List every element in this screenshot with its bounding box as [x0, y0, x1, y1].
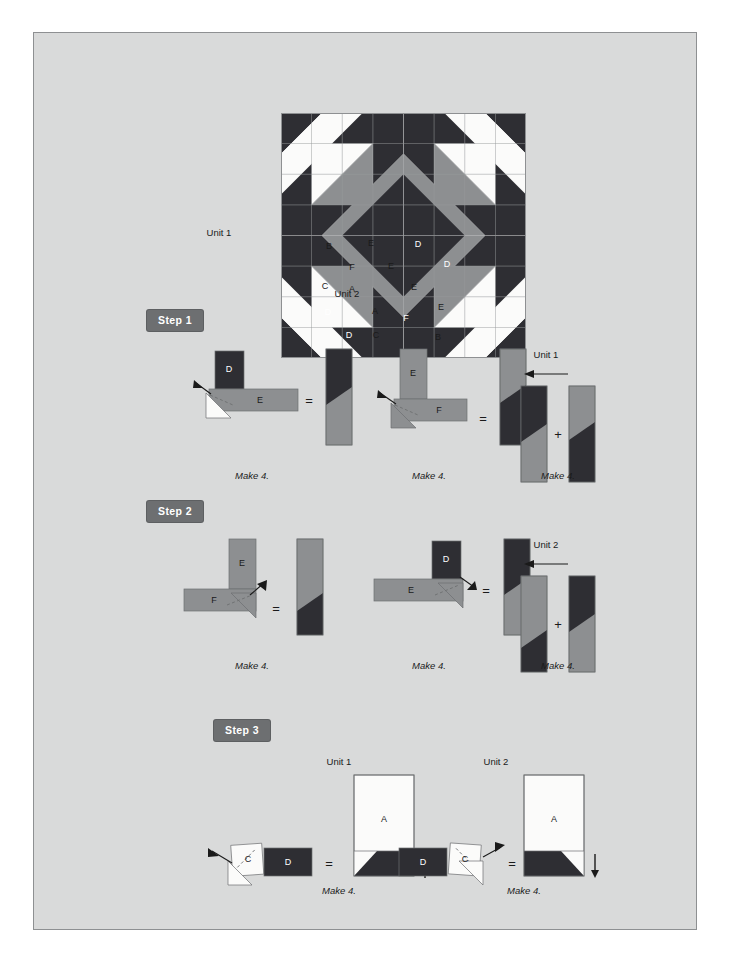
step-2-d1-caption: Make 4.: [235, 660, 269, 671]
step-2-d2-caption: Make 4.: [412, 660, 446, 671]
step-3-d1-unit-label: Unit 1: [327, 756, 352, 767]
step-2-badge: Step 2: [147, 501, 203, 522]
step-1-d3-unit-label: Unit 1: [534, 349, 559, 360]
block-unit-2-label: Unit 2: [335, 288, 360, 299]
step-1-d3-caption: Make 4.: [541, 470, 575, 481]
pattern-sheet: BEDFEDCAEAEDFDCB Unit 1 Unit 2 Step 1 D …: [33, 32, 697, 930]
step-1-diagram-3: +: [472, 363, 622, 483]
step-1-d2-caption: Make 4.: [412, 470, 446, 481]
step-1-badge: Step 1: [147, 310, 203, 331]
step-3-d2-equals: =: [508, 856, 516, 871]
step-3-d1-caption: Make 4.: [322, 885, 356, 896]
step-2-d3-plus: +: [554, 617, 562, 632]
step-2-diagram-3: +: [472, 553, 622, 673]
step-1-d1-equals: =: [305, 393, 313, 408]
step-3-d1-equals: =: [325, 856, 333, 871]
step-1-d1-caption: Make 4.: [235, 470, 269, 481]
step-3-d2-caption: Make 4.: [507, 885, 541, 896]
step-3-d2-unit-label: Unit 2: [484, 756, 509, 767]
step-2-diagram-1: E F: [184, 533, 314, 663]
step-2-d3-unit-label: Unit 2: [534, 539, 559, 550]
quilt-block-diagram: BEDFEDCAEAEDFDCB: [281, 113, 526, 358]
step-2-d3-caption: Make 4.: [541, 660, 575, 671]
step-3-badge: Step 3: [214, 720, 270, 741]
step-1-d3-plus: +: [554, 427, 562, 442]
step-3-d2-arrow-down-icon: [588, 853, 602, 879]
step-2-d1-equals: =: [272, 601, 280, 616]
step-1-diagram-1: D E: [184, 343, 314, 473]
quilt-block-svg: [281, 113, 526, 358]
step-3-diagram-2: D C A: [379, 769, 599, 909]
block-unit-1-label: Unit 1: [207, 227, 232, 238]
